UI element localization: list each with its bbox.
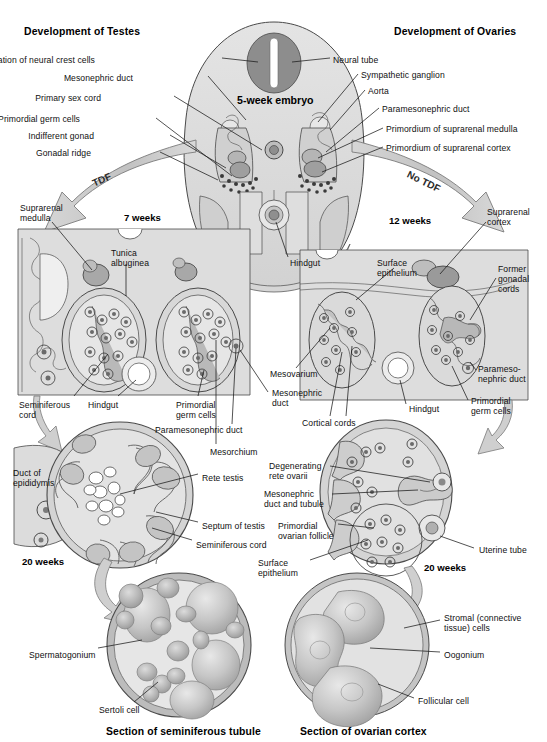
label-seminiferous-cord-20w: Seminiferous cord — [196, 540, 267, 550]
label-indifferent-gonad: Indifferent gonad — [28, 131, 94, 141]
label-uterine-tube: Uterine tube — [479, 545, 527, 555]
caption-ovarian-cortex: Section of ovarian cortex — [300, 726, 427, 737]
label-stromal-connective-tissue-cells: Stromal (connective tissue) cells — [444, 613, 521, 633]
label-follicular-cell: Follicular cell — [418, 696, 469, 706]
label-septum-of-testis: Septum of testis — [202, 521, 265, 531]
label-mesovarium: Mesovarium — [270, 369, 318, 379]
label-degenerating-rete-ovarii: Degenerating rete ovarii — [269, 461, 322, 481]
label-paramesonephric-duct-testes: Paramesonephric duct — [155, 425, 243, 435]
anatomical-figure: Development of Testes Development of Ova… — [0, 0, 547, 742]
label-suprarenal-medulla: Suprarenal medulla — [20, 203, 63, 223]
label-primordium-of-suprarenal-medulla: Primordium of suprarenal medulla — [386, 124, 518, 134]
label-oogonium: Oogonium — [444, 650, 484, 660]
label-seminiferous-cord-7w: Seminiferous cord — [19, 400, 70, 420]
label-mesonephric-duct-testes: Mesonephric duct — [272, 388, 322, 408]
seminiferous-tubule-section — [107, 573, 251, 719]
label-aggregation-of-neural-crest-cells: Aggregation of neural crest cells — [0, 55, 95, 65]
label-primary-sex-cord: Primary sex cord — [35, 93, 101, 103]
label-paramesonephric-duct-ovaries: Parameso- nephric duct — [478, 364, 526, 384]
title-development-of-testes: Development of Testes — [24, 26, 140, 37]
label-mesonephric-duct-and-tubule: Mesonephric duct and tubule — [264, 489, 324, 509]
caption-seminiferous-tubule: Section of seminiferous tubule — [106, 726, 261, 737]
label-primordial-germ-cells-embryo: Primordial germ cells — [0, 114, 80, 124]
label-duct-of-epididymis: Duct of epididymis — [13, 468, 54, 488]
label-gonadal-ridge: Gonadal ridge — [36, 148, 91, 158]
label-primordial-ovarian-follicle: Primordial ovarian follicle — [278, 521, 334, 541]
label-rete-testis: Rete testis — [202, 473, 243, 483]
label-aorta: Aorta — [368, 86, 389, 96]
label-spermatogonium: Spermatogonium — [29, 650, 96, 660]
label-mesonephric-duct-embryo: Mesonephric duct — [64, 73, 133, 83]
label-suprarenal-cortex: Suprarenal cortex — [487, 207, 530, 227]
label-neural-tube: Neural tube — [333, 55, 378, 65]
label-sertoli-cell: Sertoli cell — [99, 705, 140, 715]
embryo-title: 5-week embryo — [237, 94, 314, 106]
label-sympathetic-ganglion: Sympathetic ganglion — [361, 70, 445, 80]
stage-testes-20-weeks: 20 weeks — [22, 556, 64, 567]
stage-ovaries-12-weeks: 12 weeks — [389, 215, 431, 226]
stage-testes-7-weeks: 7 weeks — [124, 212, 161, 223]
label-primordial-germ-cells-ovaries: Primordial germ cells — [471, 396, 511, 416]
title-development-of-ovaries: Development of Ovaries — [394, 26, 516, 37]
label-former-gonadal-cords: Former gonadal cords — [498, 264, 529, 295]
label-paramesonephric-duct-embryo: Paramesonephric duct — [382, 104, 470, 114]
label-primordium-of-suprarenal-cortex: Primordium of suprarenal cortex — [386, 143, 511, 153]
label-hindgut-embryo: Hindgut — [290, 258, 320, 268]
label-hindgut-ovaries: Hindgut — [409, 404, 439, 414]
label-hindgut-testes: Hindgut — [88, 400, 118, 410]
label-cortical-cords: Cortical cords — [302, 418, 356, 428]
label-surface-epithelium-20w: Surface epithelium — [258, 558, 298, 578]
label-primordial-germ-cells-testes: Primordial germ cells — [176, 400, 216, 420]
stage-ovaries-20-weeks: 20 weeks — [424, 562, 466, 573]
label-surface-epithelium-12w: Surface epithelium — [377, 258, 417, 278]
label-mesorchium: Mesorchium — [210, 447, 258, 457]
label-tunica-albuginea: Tunica albuginea — [111, 248, 149, 268]
